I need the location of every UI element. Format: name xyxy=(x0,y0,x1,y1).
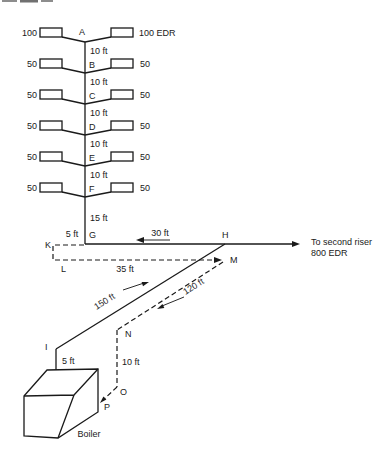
point-label-i: I xyxy=(45,342,48,352)
radiator-right xyxy=(111,59,133,68)
drop-pipe-elbow xyxy=(103,387,117,400)
boiler-label: Boiler xyxy=(77,429,100,439)
radiator-right xyxy=(111,28,133,37)
radiator-left xyxy=(40,152,62,161)
edr-label-left: 50 xyxy=(27,90,37,100)
runout-left xyxy=(62,37,85,42)
point-label: F xyxy=(89,184,95,194)
distance-label-gh: 30 ft xyxy=(151,228,169,238)
distance-label-ij: 5 ft xyxy=(62,356,75,366)
edr-label-left: 50 xyxy=(27,183,37,193)
radiator-right xyxy=(111,152,133,161)
second-riser-note-line2: 800 EDR xyxy=(311,248,348,258)
radiator-right xyxy=(111,90,133,99)
arrowhead-right-icon xyxy=(214,257,222,263)
segment-length-label: 10 ft xyxy=(90,139,108,149)
arrowhead-right-icon xyxy=(292,241,300,247)
point-label-g: G xyxy=(89,230,96,240)
flow-arrow-hi xyxy=(123,283,144,290)
point-label: E xyxy=(89,153,95,163)
edr-label-right: 50 xyxy=(140,90,150,100)
runout-left xyxy=(62,192,85,197)
distance-label-no: 10 ft xyxy=(122,357,140,367)
edr-label-left: 50 xyxy=(27,59,37,69)
segment-length-label: 10 ft xyxy=(90,46,108,56)
radiator-left xyxy=(40,59,62,68)
edr-label-left: 100 xyxy=(22,28,37,38)
second-riser-note-line1: To second riser xyxy=(311,237,372,247)
edr-label-right: 100 EDR xyxy=(139,28,176,38)
radiator-left xyxy=(40,183,62,192)
radiator-row-a: 100 100 EDR A 10 ft xyxy=(22,27,176,56)
segment-length-label: 10 ft xyxy=(90,77,108,87)
point-label: B xyxy=(89,60,95,70)
point-label-l: L xyxy=(61,264,66,274)
cropped-print-artifact xyxy=(2,0,53,3)
runout-left xyxy=(62,161,85,166)
edr-label-right: 50 xyxy=(140,59,150,69)
radiator-row-d: 50 50 D 10 ft xyxy=(27,121,150,149)
artifact-mark xyxy=(41,0,53,2)
radiator-left xyxy=(40,28,62,37)
edr-label-left: 50 xyxy=(27,152,37,162)
runout-left xyxy=(62,68,85,73)
point-label: C xyxy=(89,91,96,101)
arrowhead-upright-icon xyxy=(142,282,149,286)
point-label-h: H xyxy=(222,230,229,240)
edr-label-left: 50 xyxy=(27,121,37,131)
diagram-svg: 100 100 EDR A 10 ft 50 50 B 10 ft 50 50 … xyxy=(0,0,392,458)
radiator-row-c: 50 50 C 10 ft xyxy=(27,90,150,118)
radiator-left xyxy=(40,90,62,99)
edr-label-right: 50 xyxy=(140,183,150,193)
point-label: D xyxy=(89,122,96,132)
segment-length-label: 15 ft xyxy=(90,213,108,223)
edr-label-right: 50 xyxy=(140,152,150,162)
point-label-n: N xyxy=(125,329,132,339)
distance-label-lm: 35 ft xyxy=(116,264,134,274)
segment-length-label: 10 ft xyxy=(90,170,108,180)
return-pipe xyxy=(53,245,213,260)
radiator-row-b: 50 50 B 10 ft xyxy=(27,59,150,87)
radiator-left xyxy=(40,121,62,130)
distance-label-hi: 150 ft xyxy=(92,291,117,312)
radiator-right xyxy=(111,183,133,192)
boiler-outline xyxy=(24,369,98,438)
distance-label-mn: 120 ft xyxy=(181,276,206,297)
radiator-right xyxy=(111,121,133,130)
radiator-row-e: 50 50 E 10 ft xyxy=(27,152,150,180)
return-line-klm: 5 ft K L 35 ft M xyxy=(45,229,238,274)
runout-left xyxy=(62,99,85,104)
arrowhead-downleft-icon xyxy=(157,304,164,309)
boiler: Boiler xyxy=(24,369,101,439)
point-label-m: M xyxy=(230,255,238,265)
point-label-k: K xyxy=(45,240,51,250)
edr-label-right: 50 xyxy=(140,121,150,131)
point-label-p: P xyxy=(104,402,110,412)
point-label-o: O xyxy=(120,387,127,397)
distance-label-kg: 5 ft xyxy=(66,229,79,239)
steam-piping-diagram: 100 100 EDR A 10 ft 50 50 B 10 ft 50 50 … xyxy=(0,0,392,458)
runout-left xyxy=(62,130,85,135)
segment-length-label: 10 ft xyxy=(90,108,108,118)
runout-right xyxy=(85,37,111,42)
artifact-mark xyxy=(2,0,17,2)
return-drop-nop: N 10 ft O P xyxy=(100,329,140,412)
steam-main: G H To second riser 800 EDR 30 ft xyxy=(85,228,372,258)
point-label: A xyxy=(79,27,85,37)
arrowhead-left-icon xyxy=(136,237,144,243)
radiator-row-f: 50 50 F 15 ft xyxy=(27,183,150,223)
artifact-mark xyxy=(20,0,38,3)
